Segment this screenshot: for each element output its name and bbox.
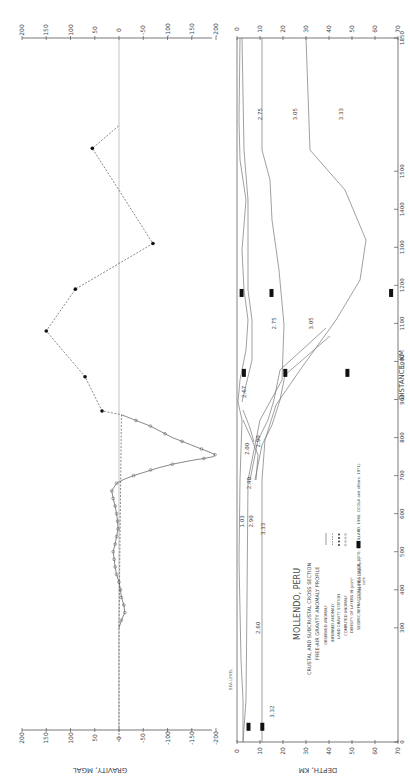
density-label: 3.05 xyxy=(308,317,314,330)
gravity-tick-label: 50 xyxy=(91,734,98,742)
gravity-tick-label: 0 xyxy=(115,28,122,32)
figure: 200150100500-50-100-150-200 200150100500… xyxy=(0,0,410,780)
legend-label: INFERRED ANOMALY xyxy=(330,603,335,642)
depth-tick-label: 50 xyxy=(348,747,355,755)
gravity-tick-label: -150 xyxy=(188,23,195,37)
depth-tick-label: 30 xyxy=(302,747,309,755)
legend-label: DENSITY OF LAYERS IN g/cm³ xyxy=(349,577,354,633)
density-labels: 3.322.601.032.903.332.402.002.902.672.75… xyxy=(239,107,344,717)
land-gravity-station xyxy=(74,287,78,291)
legend-label: COMPUTED ANOMALY xyxy=(343,594,348,636)
legend-block: MOLLENDO, PERU CRUSTAL AND SUBCRUSTAL CR… xyxy=(293,463,366,675)
gravity-tick-label: 0 xyxy=(115,736,122,740)
land-gravity-station xyxy=(83,375,87,379)
density-label: 2.75 xyxy=(257,107,263,120)
density-label: 3.33 xyxy=(338,107,344,120)
distance-tick-label: 1500 xyxy=(399,164,405,178)
gravity-panel: 200150100500-50-100-150-200 200150100500… xyxy=(18,23,219,774)
land-gravity-station xyxy=(91,147,95,151)
gravity-tick-label: -100 xyxy=(164,731,171,745)
depth-tick-label: 50 xyxy=(348,25,355,33)
depth-tick-label: 60 xyxy=(371,25,378,33)
density-label: 3.32 xyxy=(269,705,275,717)
distance-tick-label: 800 xyxy=(399,432,405,443)
distance-tick-label: 1850 xyxy=(399,31,405,45)
gravity-series xyxy=(44,126,216,742)
depth-tick-label: 0 xyxy=(233,749,240,753)
density-label: 1.03 xyxy=(239,515,245,528)
legend-circle xyxy=(345,534,347,536)
density-label: 2.75 xyxy=(271,317,277,330)
distance-tick-label: 1400 xyxy=(399,202,405,216)
distance-tick-label: 400 xyxy=(399,584,405,595)
gravity-tick-label: 150 xyxy=(42,732,49,744)
seismic-refraction-bar xyxy=(260,723,264,731)
gravity-tick-label: 50 xyxy=(91,26,98,34)
gravity-tick-label: 200 xyxy=(18,732,25,744)
gravity-tick-label: 200 xyxy=(18,24,25,36)
legend-dot xyxy=(338,544,340,546)
gravity-tick-label: 100 xyxy=(67,732,74,744)
seismic-refraction-bar xyxy=(240,289,244,297)
gravity-tick-label: -200 xyxy=(212,23,219,37)
seismic-refraction-bars xyxy=(240,289,394,731)
gravity-tick-label: 100 xyxy=(67,24,74,36)
legend-circle xyxy=(345,544,347,546)
distance-tick-label: 0 xyxy=(399,740,405,744)
distance-tick-label: 1100 xyxy=(399,316,405,330)
inferred-anomaly-line xyxy=(46,126,153,742)
gravity-tick-label: -100 xyxy=(164,23,171,37)
density-label: 2.60 xyxy=(255,621,261,634)
seismic-refraction-bar xyxy=(247,723,251,731)
cross-section-panel: 010203040506070 010203040506070 03004005… xyxy=(228,25,406,774)
observed-anomaly-line xyxy=(112,415,215,628)
depth-tick-label: 40 xyxy=(325,25,332,33)
figure-subtitle-1: CRUSTAL AND SUBCRUSTAL CROSS SECTION xyxy=(306,563,312,675)
density-label: 3.33 xyxy=(260,522,266,535)
depth-axis-label: DEPTH, KM xyxy=(299,766,338,774)
sea-level-label: SEA LEVEL xyxy=(228,668,233,690)
depth-tick-label: 30 xyxy=(302,25,309,33)
depth-tick-label: 10 xyxy=(256,747,263,755)
mid-crust-boundary xyxy=(243,38,284,742)
gravity-ticks-bottom: 200150100500-50-100-150-200 xyxy=(18,728,219,745)
credit-year: 1976 xyxy=(362,577,366,585)
distance-axis-label: DISTANCE, KM xyxy=(398,350,406,400)
seismic-refraction-bar xyxy=(345,369,349,377)
distance-tick-label: 1300 xyxy=(399,240,405,254)
legend-dot xyxy=(338,541,340,543)
figure-subtitle-2: FREE-AIR GRAVITY ANOMALY PROFILE xyxy=(314,567,320,660)
depth-tick-label: 0 xyxy=(233,27,240,31)
density-label: 2.90 xyxy=(255,435,261,448)
distance-tick-label: 500 xyxy=(399,546,405,557)
depth-tick-label: 70 xyxy=(394,747,401,755)
figure-title: MOLLENDO, PERU xyxy=(293,568,302,640)
gravity-tick-label: -50 xyxy=(139,733,146,743)
land-gravity-station xyxy=(44,329,48,333)
gravity-ticks-top: 200150100500-50-100-150-200 xyxy=(18,23,219,40)
upper-crust-boundary xyxy=(242,38,252,402)
legend-circle xyxy=(345,537,347,539)
depth-tick-label: 10 xyxy=(256,25,263,33)
land-gravity-station xyxy=(100,409,104,413)
depth-tick-label: 40 xyxy=(325,747,332,755)
seismic-refraction-bar xyxy=(242,369,246,377)
distance-tick-label: 600 xyxy=(399,508,405,519)
density-label: 2.67 xyxy=(241,385,247,398)
legend-label: LAND GRAVITY STATION xyxy=(336,594,341,639)
seismic-refraction-bar xyxy=(389,289,393,297)
density-label: 2.00 xyxy=(244,442,250,455)
seismic-refraction-bar xyxy=(283,369,287,377)
gravity-tick-label: 150 xyxy=(42,24,49,36)
distance-tick-label: 700 xyxy=(399,470,405,481)
gravity-tick-label: -200 xyxy=(212,731,219,745)
legend-circle xyxy=(345,541,347,543)
depth-tick-label: 20 xyxy=(279,747,286,755)
gravity-axis-label: GRAVITY, MGAL xyxy=(73,766,127,774)
density-label: 2.40 xyxy=(246,477,252,490)
density-label: 3.05 xyxy=(292,107,298,120)
trench-sediment-2 xyxy=(243,410,254,442)
legend-label: OBSERVED ANOMALY xyxy=(323,604,328,645)
legend-bar xyxy=(357,541,361,548)
seismic-refraction-bar xyxy=(270,289,274,297)
